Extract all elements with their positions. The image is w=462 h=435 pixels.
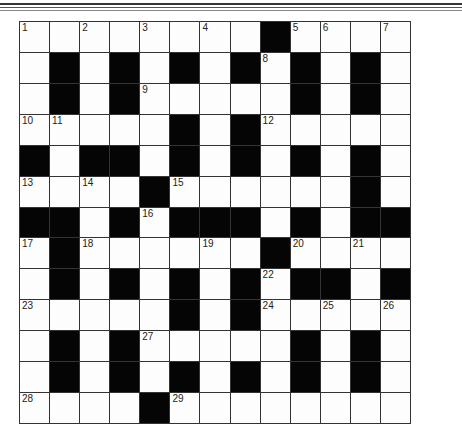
answer-cell[interactable] [80, 300, 109, 330]
answer-cell[interactable]: 1 [20, 22, 49, 52]
answer-cell[interactable] [20, 362, 49, 392]
answer-cell[interactable] [381, 84, 410, 114]
answer-cell[interactable] [50, 393, 79, 423]
answer-cell[interactable]: 13 [20, 177, 49, 207]
answer-cell[interactable]: 23 [20, 300, 49, 330]
answer-cell[interactable] [200, 115, 229, 145]
answer-cell[interactable] [20, 331, 49, 361]
answer-cell[interactable]: 15 [170, 177, 199, 207]
answer-cell[interactable] [140, 300, 169, 330]
answer-cell[interactable] [381, 393, 410, 423]
answer-cell[interactable] [381, 53, 410, 83]
answer-cell[interactable] [110, 300, 139, 330]
answer-cell[interactable] [140, 362, 169, 392]
answer-cell[interactable]: 14 [80, 177, 109, 207]
answer-cell[interactable]: 10 [20, 115, 49, 145]
answer-cell[interactable] [140, 53, 169, 83]
answer-cell[interactable] [80, 331, 109, 361]
answer-cell[interactable] [381, 331, 410, 361]
answer-cell[interactable] [80, 269, 109, 299]
answer-cell[interactable]: 21 [351, 238, 380, 268]
answer-cell[interactable] [110, 22, 139, 52]
answer-cell[interactable] [351, 300, 380, 330]
answer-cell[interactable] [231, 331, 260, 361]
answer-cell[interactable]: 7 [381, 22, 410, 52]
answer-cell[interactable]: 3 [140, 22, 169, 52]
answer-cell[interactable] [351, 269, 380, 299]
answer-cell[interactable] [200, 300, 229, 330]
answer-cell[interactable]: 12 [261, 115, 290, 145]
answer-cell[interactable] [231, 84, 260, 114]
answer-cell[interactable] [321, 208, 350, 238]
answer-cell[interactable] [50, 177, 79, 207]
answer-cell[interactable] [170, 22, 199, 52]
answer-cell[interactable]: 4 [200, 22, 229, 52]
answer-cell[interactable] [200, 53, 229, 83]
answer-cell[interactable] [20, 53, 49, 83]
answer-cell[interactable] [200, 177, 229, 207]
answer-cell[interactable] [110, 238, 139, 268]
answer-cell[interactable] [261, 208, 290, 238]
answer-cell[interactable] [80, 393, 109, 423]
answer-cell[interactable]: 9 [140, 84, 169, 114]
answer-cell[interactable] [140, 115, 169, 145]
answer-cell[interactable] [351, 393, 380, 423]
answer-cell[interactable]: 19 [200, 238, 229, 268]
answer-cell[interactable]: 16 [140, 208, 169, 238]
answer-cell[interactable]: 6 [321, 22, 350, 52]
answer-cell[interactable] [351, 115, 380, 145]
answer-cell[interactable] [110, 115, 139, 145]
answer-cell[interactable] [80, 208, 109, 238]
answer-cell[interactable] [291, 393, 320, 423]
answer-cell[interactable]: 27 [140, 331, 169, 361]
answer-cell[interactable] [20, 84, 49, 114]
answer-cell[interactable] [200, 362, 229, 392]
answer-cell[interactable] [231, 238, 260, 268]
answer-cell[interactable] [321, 146, 350, 176]
answer-cell[interactable] [321, 177, 350, 207]
answer-cell[interactable]: 28 [20, 393, 49, 423]
answer-cell[interactable] [381, 238, 410, 268]
answer-cell[interactable]: 25 [321, 300, 350, 330]
answer-cell[interactable] [321, 331, 350, 361]
answer-cell[interactable] [381, 177, 410, 207]
answer-cell[interactable] [50, 22, 79, 52]
answer-cell[interactable]: 11 [50, 115, 79, 145]
answer-cell[interactable] [321, 84, 350, 114]
answer-cell[interactable] [200, 84, 229, 114]
answer-cell[interactable] [170, 331, 199, 361]
answer-cell[interactable] [381, 115, 410, 145]
answer-cell[interactable] [110, 177, 139, 207]
answer-cell[interactable] [50, 300, 79, 330]
answer-cell[interactable] [140, 146, 169, 176]
answer-cell[interactable] [200, 331, 229, 361]
answer-cell[interactable] [200, 393, 229, 423]
answer-cell[interactable] [50, 146, 79, 176]
answer-cell[interactable] [80, 115, 109, 145]
answer-cell[interactable] [110, 393, 139, 423]
answer-cell[interactable] [140, 238, 169, 268]
answer-cell[interactable]: 24 [261, 300, 290, 330]
answer-cell[interactable] [321, 362, 350, 392]
answer-cell[interactable] [231, 22, 260, 52]
answer-cell[interactable] [321, 238, 350, 268]
answer-cell[interactable] [351, 22, 380, 52]
answer-cell[interactable] [80, 362, 109, 392]
answer-cell[interactable] [261, 331, 290, 361]
answer-cell[interactable] [170, 238, 199, 268]
answer-cell[interactable]: 18 [80, 238, 109, 268]
answer-cell[interactable] [261, 393, 290, 423]
answer-cell[interactable] [261, 177, 290, 207]
answer-cell[interactable] [261, 84, 290, 114]
answer-cell[interactable] [200, 269, 229, 299]
answer-cell[interactable] [321, 115, 350, 145]
answer-cell[interactable] [140, 269, 169, 299]
answer-cell[interactable] [231, 393, 260, 423]
answer-cell[interactable] [170, 84, 199, 114]
answer-cell[interactable]: 29 [170, 393, 199, 423]
answer-cell[interactable]: 22 [261, 269, 290, 299]
answer-cell[interactable] [291, 115, 320, 145]
answer-cell[interactable] [291, 300, 320, 330]
answer-cell[interactable] [200, 146, 229, 176]
answer-cell[interactable] [261, 362, 290, 392]
